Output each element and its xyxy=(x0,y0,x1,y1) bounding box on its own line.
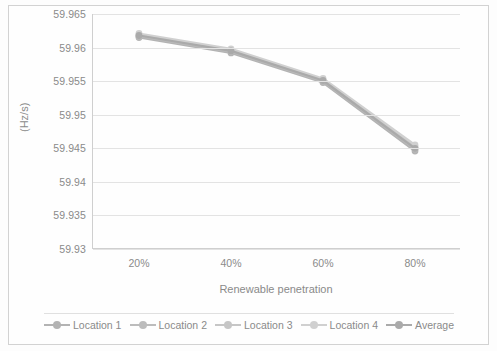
legend-label: Average xyxy=(415,319,454,331)
y-axis-tick-label: 59.95 xyxy=(59,109,86,121)
y-axis-tick-label: 59.965 xyxy=(53,8,86,20)
gridline xyxy=(93,182,460,183)
y-axis-tick-label: 59.96 xyxy=(59,42,86,54)
legend-label: Location 1 xyxy=(73,319,121,331)
legend-marker-icon xyxy=(386,320,412,330)
gridline xyxy=(93,81,460,82)
legend-label: Location 2 xyxy=(159,319,207,331)
x-axis-tick-label: 80% xyxy=(404,257,425,269)
y-axis-title: (Hz/s) xyxy=(18,103,30,132)
gridline xyxy=(93,48,460,49)
x-axis-title: Renewable penetration xyxy=(92,283,460,295)
y-axis-tick-label: 59.94 xyxy=(59,176,86,188)
series-line xyxy=(139,35,415,147)
series-line xyxy=(139,38,415,152)
series-point xyxy=(136,32,143,39)
y-axis-tick-label: 59.93 xyxy=(59,243,86,255)
gridline xyxy=(93,148,460,149)
legend-item[interactable]: Location 4 xyxy=(301,319,378,331)
series-line xyxy=(139,34,415,145)
legend-item[interactable]: Location 2 xyxy=(130,319,207,331)
x-axis-tick-label: 20% xyxy=(128,257,149,269)
gridline xyxy=(93,249,460,250)
legend-marker-icon xyxy=(130,320,156,330)
y-axis-tick-label: 59.955 xyxy=(53,75,86,87)
x-axis-tick-label: 40% xyxy=(220,257,241,269)
legend-label: Location 3 xyxy=(244,319,292,331)
series-line xyxy=(139,36,415,149)
x-axis-tick-label: 60% xyxy=(312,257,333,269)
gridline xyxy=(93,215,460,216)
gridline xyxy=(93,14,460,15)
y-axis-tick-label: 59.945 xyxy=(53,142,86,154)
legend-marker-icon xyxy=(215,320,241,330)
legend-marker-icon xyxy=(44,320,70,330)
legend-item[interactable]: Location 3 xyxy=(215,319,292,331)
chart-container: (Hz/s) 59.9359.93559.9459.94559.9559.955… xyxy=(0,0,497,351)
y-axis-tick-label: 59.935 xyxy=(53,209,86,221)
legend-label: Location 4 xyxy=(330,319,378,331)
legend-marker-icon xyxy=(301,320,327,330)
legend-item[interactable]: Average xyxy=(386,319,454,331)
legend-item[interactable]: Location 1 xyxy=(44,319,121,331)
chart-legend: Location 1Location 2Location 3Location 4… xyxy=(44,313,454,333)
series-line xyxy=(139,36,415,149)
gridline xyxy=(93,115,460,116)
plot-area: 59.9359.93559.9459.94559.9559.95559.9659… xyxy=(92,14,460,249)
series-lines xyxy=(93,14,461,249)
